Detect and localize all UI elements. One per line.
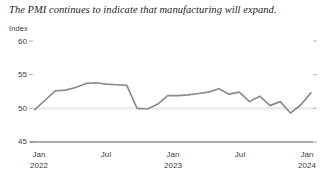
chart-plot-area (0, 0, 327, 177)
chart-figure: The PMI continues to indicate that manuf… (0, 0, 327, 177)
y-tick-marks (29, 41, 33, 142)
y-tick-marks-right (313, 41, 317, 142)
